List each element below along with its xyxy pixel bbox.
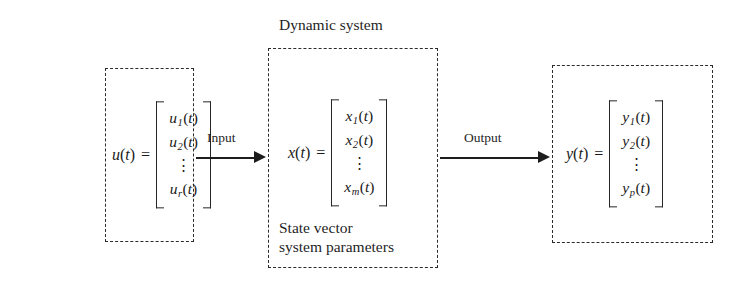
system-title: Dynamic system [279, 16, 383, 35]
output-vector-row-2: y2(t) [620, 131, 652, 155]
output-equals-sign: = [593, 145, 604, 163]
state-vector-row-1: x1(t) [343, 105, 375, 129]
output-arrow-label: Output [464, 130, 502, 146]
system-caption: State vector system parameters [279, 219, 394, 257]
state-vector-row-2: x2(t) [343, 130, 375, 154]
input-vector-row-n: ur(t) [168, 178, 200, 202]
output-vector-lhs: y(t) [566, 145, 588, 163]
input-vector-row-2: u2(t) [167, 132, 200, 156]
input-arrow-shaft [196, 157, 256, 159]
input-arrow-label: Input [207, 130, 236, 146]
state-vector-equation: x(t) = x1(t) x2(t) ⋮ xm(t) [288, 99, 387, 206]
output-arrow [440, 148, 552, 168]
input-vector-lhs: u(t) [112, 146, 135, 164]
diagram-canvas: u(t) = u1(t) u2(t) ⋮ ur(t) Input Dynamic… [0, 0, 739, 283]
state-vector-ellipsis: ⋮ [350, 154, 369, 176]
output-vector-equation: y(t) = y1(t) y2(t) ⋮ yp(t) [566, 100, 663, 207]
output-arrow-shaft [440, 157, 540, 159]
output-vector-row-1: y1(t) [620, 106, 652, 130]
output-column-vector: y1(t) y2(t) ⋮ yp(t) [609, 100, 663, 207]
state-equals-sign: = [315, 144, 326, 162]
system-caption-line-1: State vector [279, 219, 394, 238]
output-vector-ellipsis: ⋮ [627, 155, 646, 177]
input-arrow [196, 148, 268, 168]
state-vector-row-n: xm(t) [342, 176, 376, 200]
output-arrow-head [538, 151, 550, 163]
input-vector-ellipsis: ⋮ [174, 156, 193, 178]
input-equals-sign: = [140, 146, 151, 164]
state-column-vector: x1(t) x2(t) ⋮ xm(t) [331, 99, 387, 206]
system-caption-line-2: system parameters [279, 238, 394, 257]
state-vector-lhs: x(t) [288, 144, 310, 162]
input-arrow-head [254, 151, 266, 163]
output-vector-row-n: yp(t) [620, 177, 652, 201]
input-vector-row-1: u1(t) [167, 107, 200, 131]
